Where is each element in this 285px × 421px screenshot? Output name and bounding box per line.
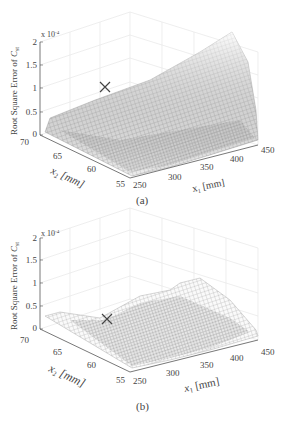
xtick: 400 xyxy=(230,154,244,164)
ztick: 1 xyxy=(33,83,38,93)
panel-label-b: (b) xyxy=(136,400,149,413)
xtick: 450 xyxy=(261,347,275,357)
ytick: 60 xyxy=(87,164,97,174)
ztick: 0 xyxy=(33,323,38,333)
ztick: 0.5 xyxy=(26,107,38,117)
xtick: 250 xyxy=(133,376,147,386)
figure: 2 1.5 1 0.5 0 x 10-4 Root Square Error o… xyxy=(0,0,285,421)
y-axis-label: x2 [mm] xyxy=(47,164,86,192)
x-axis-label: x1 [mm] xyxy=(182,375,221,396)
ztick: 1.5 xyxy=(26,255,38,265)
ytick: 60 xyxy=(87,360,97,370)
ytick: 70 xyxy=(20,137,30,147)
xtick: 450 xyxy=(261,145,275,155)
ytick: 55 xyxy=(116,375,126,385)
xtick: 400 xyxy=(230,353,244,363)
ztick: 0.5 xyxy=(26,301,38,311)
ztick: 1.5 xyxy=(26,60,38,70)
ztick: 2 xyxy=(33,233,38,243)
ytick: 65 xyxy=(53,347,63,357)
ytick: 65 xyxy=(53,151,63,161)
panel-b: 2 1.5 1 0.5 0 x 10-4 Root Square Error o… xyxy=(9,208,275,413)
x-axis-label: x1 [mm] xyxy=(191,176,225,195)
panel-a: 2 1.5 1 0.5 0 x 10-4 Root Square Error o… xyxy=(9,12,275,207)
z-multiplier: x 10-4 xyxy=(41,30,60,39)
z-axis-label: Root Square Error of Cst xyxy=(9,47,20,135)
z-axis-label: Root Square Error of Cst xyxy=(9,242,20,330)
ytick: 70 xyxy=(20,335,30,345)
ztick: 0 xyxy=(33,129,38,139)
ytick: 55 xyxy=(116,179,126,189)
xtick: 350 xyxy=(200,162,214,172)
xtick: 250 xyxy=(133,180,147,190)
ztick: 2 xyxy=(33,37,38,47)
ztick: 1 xyxy=(33,278,38,288)
xtick: 300 xyxy=(166,368,180,378)
panel-label-a: (a) xyxy=(136,194,149,207)
z-multiplier: x 10-4 xyxy=(41,229,60,238)
xtick: 300 xyxy=(168,172,182,182)
xtick: 350 xyxy=(200,360,214,370)
y-axis-label: x2 [mm] xyxy=(45,361,87,391)
